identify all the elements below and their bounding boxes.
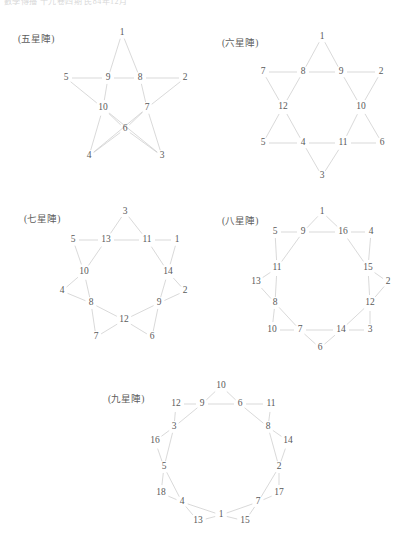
node-label-2: 2: [277, 461, 282, 471]
node-label-14: 14: [283, 435, 293, 445]
edge-8-14: [273, 430, 282, 436]
node-label-13: 13: [193, 515, 203, 525]
edge-4-1: [188, 504, 216, 513]
edge-13-1: [206, 517, 215, 519]
node-label-15: 15: [240, 515, 250, 525]
edge-10-6: [227, 392, 236, 400]
edge-group-nonagram: [158, 392, 286, 520]
node-label-16: 16: [150, 435, 160, 445]
node-label-12: 12: [171, 398, 181, 408]
edge-10-9: [206, 392, 215, 400]
node-label-7: 7: [256, 496, 261, 506]
node-label-8: 8: [266, 421, 271, 431]
edge-7-15: [250, 507, 255, 514]
edge-4-13: [186, 507, 193, 515]
node-label-18: 18: [156, 487, 166, 497]
node-label-1: 1: [219, 509, 224, 519]
node-label-5: 5: [162, 461, 167, 471]
edge-17-7: [264, 496, 272, 499]
edge-6-8: [245, 408, 264, 423]
edge-11-8: [269, 412, 270, 421]
node-label-6: 6: [238, 398, 243, 408]
node-label-9: 9: [200, 398, 205, 408]
edge-14-2: [281, 449, 285, 462]
edge-8-2: [270, 433, 278, 461]
node-group-nonagram: 101296113816145218174713115: [150, 380, 293, 525]
figure-canvas-nonagram: 101296113816145218174713115: [0, 0, 416, 551]
edge-3-5: [165, 433, 172, 461]
edge-9-3: [179, 408, 198, 423]
node-label-11: 11: [266, 398, 275, 408]
edge-12-3: [175, 412, 176, 421]
edge-16-5: [158, 449, 162, 462]
edge-1-15: [227, 516, 237, 519]
page-root: 數學傳播 十九卷四期 民84年12月 (五星陣)15982107643(六星陣)…: [0, 0, 416, 551]
node-label-17: 17: [274, 487, 284, 497]
node-label-10: 10: [216, 380, 226, 390]
node-label-3: 3: [172, 421, 177, 431]
edge-7-1: [227, 504, 253, 513]
edge-3-16: [161, 431, 169, 437]
edge-5-4: [167, 472, 180, 496]
node-label-4: 4: [180, 496, 185, 506]
edge-5-18: [162, 473, 163, 485]
edge-18-4: [168, 496, 176, 499]
